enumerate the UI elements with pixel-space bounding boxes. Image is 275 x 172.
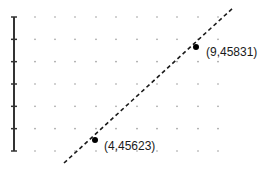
data-point-b xyxy=(193,44,199,50)
y-axis xyxy=(11,17,17,151)
data-point-a xyxy=(92,137,98,143)
grid-dots xyxy=(34,16,219,152)
chart: (4,45623) (9,45831) xyxy=(0,0,275,172)
point-b-label: (9,45831) xyxy=(206,45,257,59)
point-a-label: (4,45623) xyxy=(104,139,155,153)
